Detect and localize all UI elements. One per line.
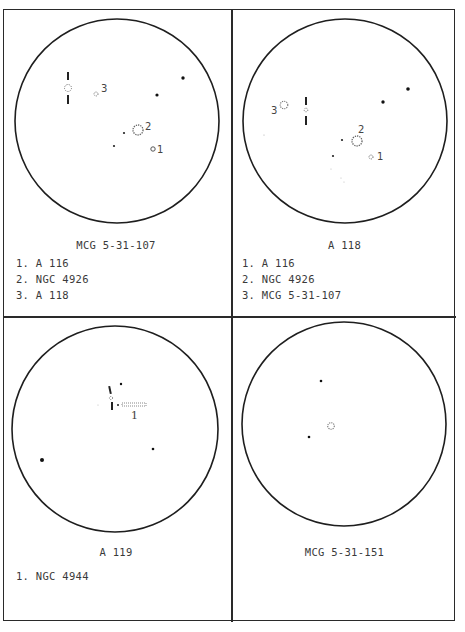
panel-title: A 119 [0, 546, 232, 558]
finder-panel-mcg-5-31-107: 3 2 1 MCG 5-31-107 1. A 116 2. NGC 4926 … [0, 0, 232, 317]
target-marker [65, 72, 72, 104]
galaxy-icon [151, 147, 155, 151]
object-label-2: 2 [145, 121, 151, 132]
star-icon [120, 383, 122, 385]
legend-item: 1. NGC 4944 [16, 568, 89, 584]
panel-title: MCG 5-31-107 [0, 239, 232, 251]
faint-speck [330, 168, 331, 169]
faint-speck [343, 181, 344, 182]
faint-speck [97, 404, 98, 405]
star-icon [40, 458, 44, 462]
field-of-view-circle [242, 322, 446, 526]
legend-item: 1. A 116 [242, 255, 341, 271]
finder-panel-mcg-5-31-151: MCG 5-31-151 [232, 317, 457, 623]
object-legend: 1. NGC 4944 [16, 568, 89, 584]
star-icon [308, 436, 311, 439]
panel-title: A 118 [232, 239, 457, 251]
galaxy-icon [369, 155, 373, 159]
target-marker [108, 386, 113, 410]
galaxy-icon [133, 125, 143, 135]
star-icon [155, 93, 158, 96]
galaxy-icon [280, 101, 288, 109]
object-label-1: 1 [157, 144, 163, 155]
field-of-view-circle [243, 19, 447, 223]
finder-panel-a-118: 3 2 1 A 118 1. A 116 2. NGC 4926 3. MCG … [232, 0, 457, 317]
star-icon [123, 132, 125, 134]
star-icon [320, 380, 323, 383]
galaxy-icon [352, 136, 362, 146]
legend-item: 1. A 116 [16, 255, 89, 271]
field-of-view-circle [12, 326, 218, 532]
galaxy-cluster-icon [122, 403, 146, 406]
object-label-1: 1 [131, 409, 138, 422]
finder-chart [232, 317, 457, 623]
legend-item: 3. MCG 5-31-107 [242, 287, 341, 303]
legend-item: 2. NGC 4926 [242, 271, 341, 287]
legend-item: 3. A 118 [16, 287, 89, 303]
faint-speck [263, 134, 264, 135]
panel-title: MCG 5-31-151 [232, 546, 457, 558]
star-icon [181, 76, 184, 79]
galaxy-icon [328, 423, 335, 430]
galaxy-icon [94, 92, 98, 96]
star-icon [341, 139, 343, 141]
legend-item: 2. NGC 4926 [16, 271, 89, 287]
star-icon [117, 404, 119, 406]
target-marker [304, 97, 308, 125]
star-icon [113, 145, 115, 147]
object-legend: 1. A 116 2. NGC 4926 3. MCG 5-31-107 [242, 255, 341, 303]
star-icon [152, 448, 155, 451]
object-legend: 1. A 116 2. NGC 4926 3. A 118 [16, 255, 89, 303]
object-label-3: 3 [101, 83, 107, 94]
field-of-view-circle [15, 19, 219, 223]
finder-panel-a-119: 1 A 119 1. NGC 4944 [0, 317, 232, 623]
object-label-1: 1 [377, 151, 383, 162]
object-label-2: 2 [358, 124, 364, 135]
star-icon [406, 87, 410, 91]
object-label-3: 3 [271, 105, 277, 116]
faint-speck [340, 177, 341, 178]
star-icon [381, 100, 384, 103]
star-icon [332, 155, 334, 157]
